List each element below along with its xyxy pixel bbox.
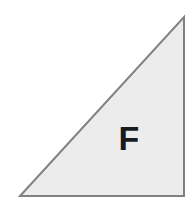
- figure-canvas: F: [0, 0, 192, 213]
- shape-label-f: F: [119, 119, 140, 157]
- right-triangle-shape: [20, 17, 184, 196]
- shape-diagram: F: [0, 0, 192, 213]
